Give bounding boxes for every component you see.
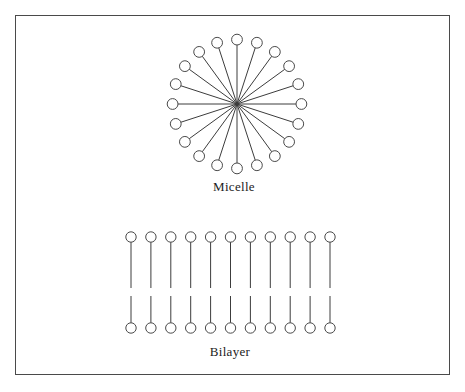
bilayer-label: Bilayer [210,344,250,360]
micelle-head [212,37,223,48]
bilayer-head-upper [245,232,255,242]
bilayer-head-lower [126,323,136,333]
micelle-label: Micelle [213,179,255,195]
diagram-canvas [0,0,465,392]
micelle-tail [189,104,237,139]
micelle-head [170,119,181,130]
micelle-head [269,46,280,57]
bilayer-head-upper [205,232,215,242]
micelle-tail [202,104,237,152]
bilayer-head-lower [245,323,255,333]
micelle-head [252,37,263,48]
bilayer-structure [126,232,335,333]
bilayer-head-upper [325,232,335,242]
micelle-tail [237,104,255,160]
bilayer-head-upper [166,232,176,242]
micelle-tail [219,48,237,104]
bilayer-head-lower [265,323,275,333]
micelle-head [296,99,307,110]
bilayer-head-lower [186,323,196,333]
micelle-head [167,99,178,110]
bilayer-head-lower [166,323,176,333]
micelle-tail [237,104,272,152]
micelle-tail [237,86,293,104]
micelle-head [284,61,295,72]
bilayer-head-upper [225,232,235,242]
bilayer-head-upper [305,232,315,242]
micelle-head [252,160,263,171]
bilayer-head-upper [186,232,196,242]
bilayer-head-upper [146,232,156,242]
micelle-head [194,46,205,57]
micelle-structure [167,34,307,174]
bilayer-head-lower [285,323,295,333]
micelle-head [284,136,295,147]
bilayer-head-upper [285,232,295,242]
bilayer-head-lower [325,323,335,333]
micelle-head [293,119,304,130]
micelle-head [194,151,205,162]
bilayer-head-upper [265,232,275,242]
micelle-tail [181,86,237,104]
micelle-tail [237,48,255,104]
micelle-tail [202,56,237,104]
micelle-head [170,79,181,90]
bilayer-head-lower [146,323,156,333]
micelle-tail [189,69,237,104]
figure-page: Micelle Bilayer [0,0,465,392]
micelle-head [232,163,243,174]
micelle-head [179,61,190,72]
micelle-tail [237,104,285,139]
micelle-tail [237,69,285,104]
micelle-tail [237,104,293,122]
bilayer-head-lower [205,323,215,333]
bilayer-head-upper [126,232,136,242]
bilayer-head-lower [225,323,235,333]
micelle-head [293,79,304,90]
micelle-head [179,136,190,147]
micelle-tail [237,56,272,104]
micelle-tail [219,104,237,160]
micelle-head [212,160,223,171]
bilayer-head-lower [305,323,315,333]
micelle-head [232,34,243,45]
micelle-tail [181,104,237,122]
micelle-head [269,151,280,162]
